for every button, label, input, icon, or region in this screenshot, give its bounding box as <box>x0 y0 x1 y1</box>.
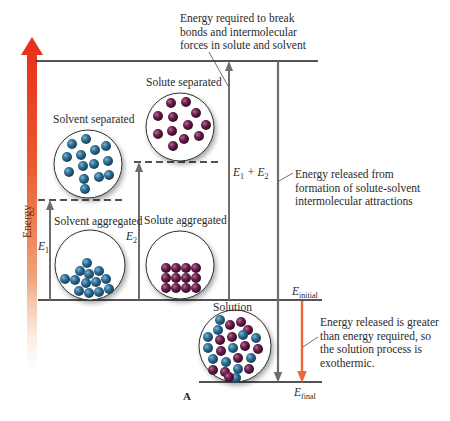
solvent-separated-bubble <box>54 130 122 198</box>
e2-label: E2 <box>126 230 137 245</box>
energy-axis-label: Energy <box>21 205 33 238</box>
e-final-label: Efinal <box>294 386 316 401</box>
solution-energy-diagram: Energy Solvent separated Solute separate… <box>0 0 450 421</box>
annotation-energy-required: Energy required to break bonds and inter… <box>180 12 306 53</box>
label-solution: Solution <box>213 301 252 315</box>
e-initial-label: Einitial <box>292 285 318 300</box>
solute-aggregated-bubble <box>146 231 214 299</box>
e1-label: E1 <box>38 240 49 255</box>
solute-separated-bubble <box>146 93 214 161</box>
solvent-aggregated-bubble <box>55 230 125 300</box>
annotation-energy-released: Energy released from formation of solute… <box>295 168 420 209</box>
label-solvent-separated: Solvent separated <box>53 113 134 127</box>
e1-plus-e2-label: E1 + E2 <box>233 166 269 181</box>
annotation-exothermic: Energy released is greater than energy r… <box>320 316 439 370</box>
leader-energy-released <box>279 173 293 181</box>
panel-label: A <box>183 390 191 402</box>
label-solvent-aggregated: Solvent aggregated <box>54 215 142 229</box>
leader-exothermic <box>303 337 318 347</box>
label-solute-aggregated: Solute aggregated <box>144 214 227 228</box>
solution-bubble <box>199 310 271 383</box>
label-solute-separated: Solute separated <box>146 76 222 90</box>
